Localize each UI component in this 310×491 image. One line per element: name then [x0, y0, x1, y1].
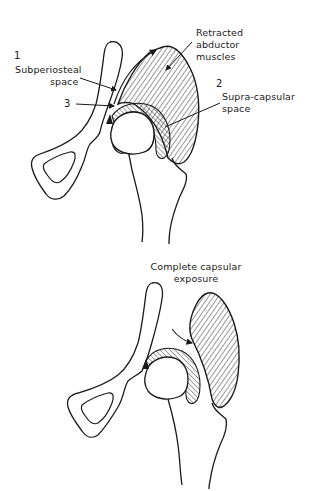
- label-number-2: 2: [216, 78, 222, 89]
- exposure-arrow: [172, 329, 192, 343]
- figure-complete-capsular-exposure: Complete capsular exposure: [0, 245, 310, 491]
- label-complete-line1: Complete capsular: [146, 261, 246, 272]
- label-subperiosteal-line2: space: [50, 76, 78, 87]
- label-number-1: 1: [14, 50, 20, 61]
- label-number-3: 3: [64, 98, 70, 109]
- label-supracapsular-line2: space: [222, 103, 250, 114]
- figure-retracted-abductors: 1 Subperiosteal space 3 Retracted abduct…: [0, 0, 310, 245]
- label-supracapsular-line1: Supra-capsular: [222, 91, 295, 102]
- label-retracted-line3: muscles: [196, 51, 236, 62]
- label-retracted-line2: abductor: [196, 39, 239, 50]
- hip-anatomy-illustration-top: [0, 0, 310, 245]
- label-retracted-line1: Retracted: [196, 27, 243, 38]
- label-complete-line2: exposure: [146, 273, 246, 284]
- label-subperiosteal-line1: Subperiosteal: [15, 64, 82, 75]
